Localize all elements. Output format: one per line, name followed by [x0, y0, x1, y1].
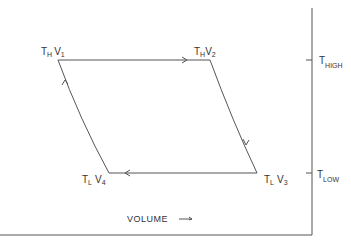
svg-text:THIGH: THIGH: [319, 55, 343, 69]
volume-axis-label: VOLUME: [127, 214, 168, 224]
carnot-cycle-diagram: THV1 THV2 TLV3 TLV4 THIGH TLOW VOLUME: [0, 0, 351, 250]
state-label-1: THV1: [41, 46, 65, 58]
path-4-1-adiabatic: [58, 60, 109, 173]
svg-text:TLV4: TLV4: [82, 174, 106, 186]
state-label-4: TLV4: [82, 174, 106, 186]
svg-text:TLV3: TLV3: [264, 174, 288, 186]
path-2-3-adiabatic: [210, 60, 257, 173]
t-low-label: TLOW: [317, 169, 339, 183]
svg-text:THV1: THV1: [41, 46, 65, 58]
t-high-label: THIGH: [319, 55, 343, 69]
svg-text:TLOW: TLOW: [317, 169, 339, 183]
state-label-2: THV2: [194, 46, 216, 58]
state-label-3: TLV3: [264, 174, 288, 186]
svg-text:THV2: THV2: [194, 46, 216, 58]
